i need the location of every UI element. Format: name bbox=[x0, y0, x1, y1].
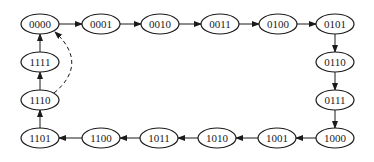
state-node: 0100 bbox=[259, 14, 297, 34]
state-node: 1001 bbox=[258, 128, 296, 148]
state-node: 0010 bbox=[141, 14, 179, 34]
state-node: 1010 bbox=[198, 128, 236, 148]
state-label: 1000 bbox=[324, 132, 347, 144]
state-diagram: 0000000100100011010001010110011110001001… bbox=[0, 0, 374, 162]
state-node: 0101 bbox=[316, 14, 354, 34]
state-node: 1000 bbox=[316, 128, 354, 148]
state-node: 0001 bbox=[82, 14, 120, 34]
state-node: 0110 bbox=[316, 52, 354, 72]
state-node: 1100 bbox=[82, 128, 120, 148]
state-label: 0101 bbox=[324, 18, 346, 30]
state-label: 1101 bbox=[29, 132, 51, 144]
state-label: 0100 bbox=[267, 18, 290, 30]
state-label: 0000 bbox=[29, 18, 52, 30]
state-label: 0011 bbox=[209, 18, 231, 30]
edges bbox=[40, 24, 335, 138]
state-node: 0011 bbox=[201, 14, 239, 34]
state-label: 1100 bbox=[90, 132, 112, 144]
state-label: 1111 bbox=[30, 56, 51, 68]
state-node: 1111 bbox=[21, 52, 59, 72]
state-label: 1011 bbox=[148, 132, 170, 144]
state-label: 0110 bbox=[324, 56, 346, 68]
state-node: 1110 bbox=[21, 90, 59, 110]
state-label: 1001 bbox=[266, 132, 288, 144]
state-node: 0000 bbox=[21, 14, 59, 34]
state-label: 0010 bbox=[149, 18, 172, 30]
state-label: 0111 bbox=[324, 94, 345, 106]
state-label: 0001 bbox=[90, 18, 112, 30]
state-label: 1110 bbox=[29, 94, 51, 106]
state-node: 0111 bbox=[316, 90, 354, 110]
nodes: 0000000100100011010001010110011110001001… bbox=[21, 14, 354, 148]
state-node: 1101 bbox=[21, 128, 59, 148]
state-label: 1010 bbox=[206, 132, 229, 144]
state-node: 1011 bbox=[140, 128, 178, 148]
